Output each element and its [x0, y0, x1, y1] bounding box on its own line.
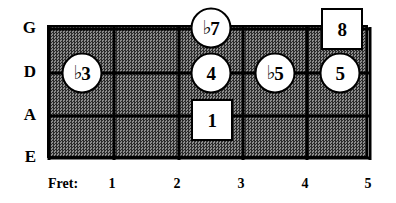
fretboard-diagram: GDAE ♭3♭741♭558 Fret: 12345 [0, 0, 396, 203]
marker-flat5: ♭5 [255, 53, 296, 94]
fret-line-3 [242, 27, 245, 160]
marker-label: 1 [208, 111, 217, 130]
fret-line-5 [369, 27, 372, 160]
marker-label: 7 [210, 19, 219, 38]
string-label-e: E [10, 148, 36, 165]
marker-label: 3 [81, 64, 90, 83]
fret-number-3: 3 [238, 177, 245, 191]
string-label-a: A [10, 106, 36, 123]
marker-label: 8 [338, 20, 347, 39]
fret-axis-title: Fret: [48, 177, 78, 191]
fret-number-2: 2 [174, 177, 181, 191]
flat-symbol-icon: ♭ [203, 18, 211, 37]
marker-flat7: ♭7 [191, 8, 232, 49]
string-line-3 [49, 157, 370, 160]
marker-label: 5 [274, 64, 283, 83]
marker-1-root: 1 [191, 99, 233, 141]
marker-label: 4 [207, 64, 216, 83]
flat-symbol-icon: ♭ [267, 63, 275, 82]
fret-number-4: 4 [302, 177, 309, 191]
marker-label: 5 [336, 64, 345, 83]
fret-line-2 [178, 27, 181, 160]
fret-line-4 [306, 27, 309, 160]
marker-8-octave: 8 [321, 8, 363, 50]
fret-number-5: 5 [365, 177, 372, 191]
marker-flat3: ♭3 [62, 53, 103, 94]
fret-number-1: 1 [109, 177, 116, 191]
marker-4: 4 [191, 53, 232, 94]
flat-symbol-icon: ♭ [74, 63, 82, 82]
marker-5: 5 [320, 53, 361, 94]
fret-line-0 [48, 27, 51, 160]
fret-line-1 [113, 27, 116, 160]
string-label-d: D [10, 63, 36, 80]
string-label-g: G [10, 19, 36, 36]
